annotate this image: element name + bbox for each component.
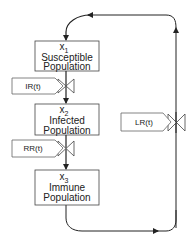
susceptible-compartment: x1 Susceptible Population <box>35 41 99 72</box>
infection-rate-valve: IR(t) <box>12 78 74 94</box>
loss-rate-valve: LR(t) <box>121 112 185 133</box>
loss-rate-label: LR(t) <box>135 118 153 127</box>
outflow-from-immune <box>66 205 158 231</box>
sir-diagram: x1 Susceptible Population x2 Infected Po… <box>0 0 193 244</box>
infection-rate-label: IR(t) <box>25 82 41 91</box>
recovery-rate-label: RR(t) <box>23 144 42 153</box>
return-flow-into-susceptible <box>66 15 90 40</box>
susceptible-label-2: Population <box>43 61 90 72</box>
immune-label-2: Population <box>43 192 90 203</box>
return-flow-top-curve <box>88 15 176 28</box>
recovery-rate-valve: RR(t) <box>12 140 74 157</box>
immune-compartment: x3 Immune Population <box>35 170 99 205</box>
infected-label-2: Population <box>43 125 90 136</box>
infected-compartment: x2 Infected Population <box>35 104 99 136</box>
return-flow-bottom-curve <box>156 210 176 231</box>
